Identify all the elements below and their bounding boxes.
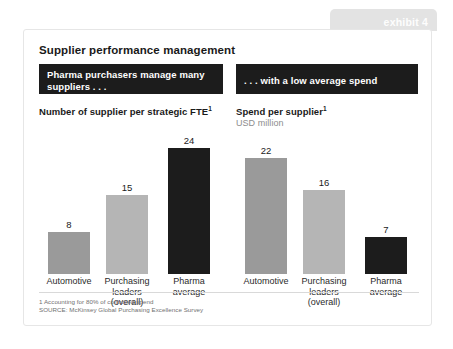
chart-panel-suppliers-per-fte: Number of supplier per strategic FTE1 81… [39,106,229,301]
chart-subtitle-right: USD million [236,118,284,128]
bar-group: 16 [303,134,345,274]
chart-title-right-superscript: 1 [323,105,327,112]
category-label-line: Purchasing [93,276,161,287]
bar-group: 8 [48,134,90,274]
chart-title-left-text: Number of supplier per strategic FTE [39,106,208,117]
category-label-line: Purchasing [290,276,358,287]
bar-value-label: 24 [168,135,210,146]
chart-title-right: Spend per supplier1 [236,106,327,117]
bar [168,148,210,274]
bar [48,232,90,274]
exhibit-card: Supplier performance management Pharma p… [23,29,432,326]
chart-title-left: Number of supplier per strategic FTE1 [39,106,212,117]
banner-right-text: . . . with a low average spend [244,69,410,87]
bar [245,158,287,274]
footnote-note: 1 Accounting for 80% of controlled spend [39,298,419,306]
bar-value-label: 22 [245,145,287,156]
chart-title-left-superscript: 1 [208,105,212,112]
banner-left-text: Pharma purchasers manage many suppliers … [47,69,215,93]
category-label-line: Pharma [155,276,223,287]
page-title: Supplier performance management [39,44,235,56]
bar-value-label: 8 [48,219,90,230]
bar-group: 7 [365,134,407,274]
banner-left: Pharma purchasers manage many suppliers … [39,64,223,94]
footnote-divider [39,292,419,293]
exhibit-tab-label: exhibit 4 [384,15,428,29]
chart-panel-spend-per-supplier: Spend per supplier1 USD million 22167 Au… [236,106,426,301]
banner-right: . . . with a low average spend [236,64,418,94]
footnote-source: SOURCE: McKinsey Global Purchasing Excel… [39,306,419,314]
bar-group: 24 [168,134,210,274]
footnote-block: 1 Accounting for 80% of controlled spend… [39,292,419,314]
chart-title-right-text: Spend per supplier [236,106,323,117]
bar-group: 15 [106,134,148,274]
bar-value-label: 16 [303,177,345,188]
bar-value-label: 15 [106,182,148,193]
exhibit-tab: exhibit 4 [330,9,437,31]
bar [365,237,407,274]
bar-value-label: 7 [365,224,407,235]
bar [106,195,148,274]
category-label-line: Pharma [352,276,420,287]
plot-area-left: 81524 [39,134,229,274]
plot-area-right: 22167 [236,134,426,274]
exhibit-page: exhibit 4 Supplier performance managemen… [0,0,453,349]
bar [303,190,345,274]
bar-group: 22 [245,134,287,274]
